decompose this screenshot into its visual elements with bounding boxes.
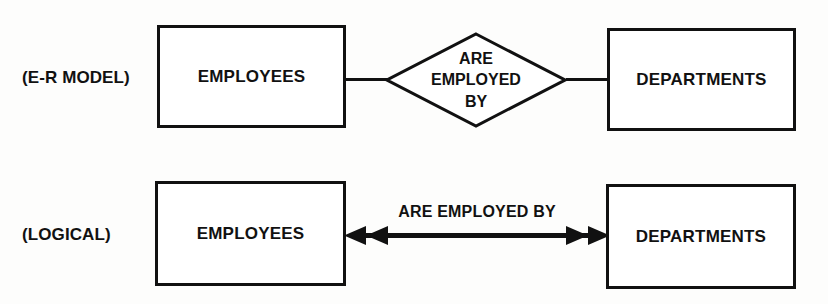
connector-line-employees-to-relationship (345, 78, 388, 81)
relationship-label-are-employed-by: ARE EMPLOYED BY (344, 203, 610, 221)
diagram-canvas: (E-R MODEL) EMPLOYEES ARE EMPLOYED BY DE… (0, 0, 828, 304)
entity-box-logical-employees: EMPLOYEES (155, 181, 346, 286)
double-headed-arrow-shape-icon (344, 222, 610, 250)
entity-box-er-departments: DEPARTMENTS (607, 28, 796, 131)
entity-label-er-departments: DEPARTMENTS (636, 70, 766, 90)
entity-box-er-employees: EMPLOYEES (157, 25, 346, 128)
entity-box-logical-departments: DEPARTMENTS (606, 184, 796, 289)
connector-line-relationship-to-departments (566, 78, 609, 81)
entity-label-logical-departments: DEPARTMENTS (636, 227, 766, 247)
entity-label-er-employees: EMPLOYEES (198, 67, 306, 87)
entity-label-logical-employees: EMPLOYEES (197, 224, 305, 244)
row-label-logical: (LOGICAL) (22, 225, 111, 245)
bidirectional-arrow-icon (344, 222, 610, 250)
relationship-diamond-are-employed-by: ARE EMPLOYED BY (384, 31, 568, 129)
row-label-er-model: (E-R MODEL) (22, 68, 130, 88)
diamond-shape-icon (384, 31, 568, 129)
